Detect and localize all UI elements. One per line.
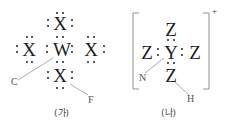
atom-x-top: X [53,14,67,33]
atom-x-right: X [84,40,98,59]
atom-z-top: Z [164,20,178,39]
label-f: F [88,94,94,105]
atom-x-bottom: X [53,66,67,85]
atom-z-right: Z [188,43,202,62]
label-c: C [11,76,18,87]
atom-y-center: Y [164,43,178,62]
atom-w-center: W [53,40,67,59]
atom-x-left: X [22,40,36,59]
label-n: N [139,72,146,83]
lewis-structure-na: Z Z Y Z Z + N H (나) [112,0,225,125]
caption-ga: (가) [54,106,69,119]
atom-z-bottom: Z [164,66,178,85]
label-h: H [187,93,194,104]
atom-z-left: Z [140,43,154,62]
lewis-structure-ga: X X W X X C F (가) [0,0,112,125]
caption-na: (나) [161,106,176,119]
charge-plus: + [212,6,217,16]
